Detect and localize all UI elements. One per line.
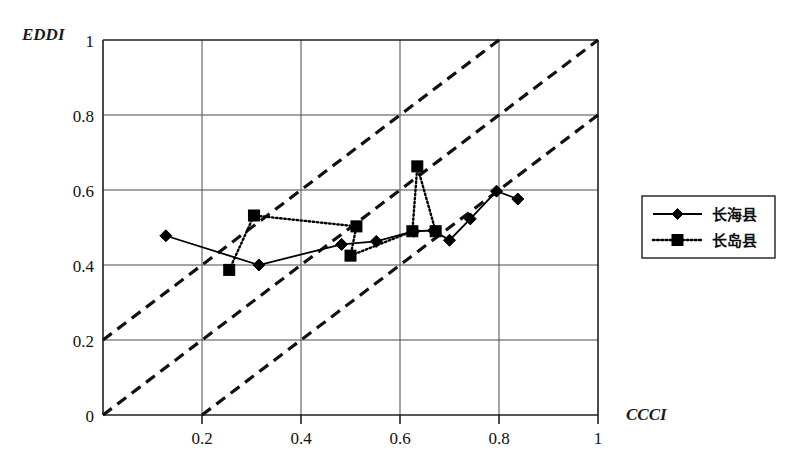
x-tick-label: 0.4 [290,429,312,448]
data-point-square[interactable] [351,221,362,232]
x-tick-label: 0.8 [488,429,509,448]
data-point-square[interactable] [407,226,418,237]
data-point-square[interactable] [224,264,235,275]
chart-legend: 长海县 长岛县 [642,196,775,258]
x-tick-label: 1 [594,429,603,448]
y-tick-label: 0.2 [73,332,94,351]
y-tick-label: 0 [86,407,95,426]
y-tick-labels: 1 0.8 0.6 0.4 0.2 0 [73,32,95,426]
y-tick-label: 0.6 [73,182,94,201]
data-point-square[interactable] [430,226,441,237]
legend-label: 长岛县 [712,232,757,250]
legend-label: 长海县 [712,206,757,224]
x-tick-labels: 0.2 0.4 0.6 0.8 1 [191,429,602,448]
scatter-chart: 1 0.8 0.6 0.4 0.2 0 0.2 0.4 0.6 0.8 1 ED… [0,0,788,473]
data-point-square[interactable] [412,161,423,172]
x-tick-label: 0.6 [389,429,410,448]
y-tick-label: 1 [86,32,95,51]
x-axis-title: CCCI [626,405,668,424]
chart-page: 1 0.8 0.6 0.4 0.2 0 0.2 0.4 0.6 0.8 1 ED… [0,0,788,473]
y-axis-title: EDDI [21,25,66,44]
legend-square-marker [672,235,683,246]
x-axis-ticks [202,415,598,424]
data-point-square[interactable] [345,250,356,261]
x-tick-label: 0.2 [191,429,212,448]
data-point-square[interactable] [248,210,259,221]
y-tick-label: 0.8 [73,107,94,126]
y-tick-label: 0.4 [73,257,95,276]
